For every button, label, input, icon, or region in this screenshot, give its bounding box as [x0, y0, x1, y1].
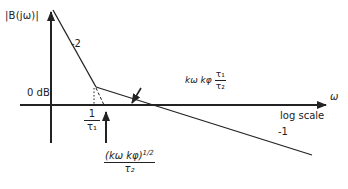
crossover-frequency-label: (kω kφ)1/2 τ₂ — [104, 150, 155, 174]
crossover-frequency-denominator: τ₂ — [104, 164, 155, 174]
crossing-label-numerator: τ₁ — [215, 70, 226, 79]
actual-response-curve — [96, 88, 104, 105]
break-frequency-label: 1 τ₁ — [84, 109, 100, 132]
slope-label-steep: -2 — [71, 39, 81, 49]
crossing-label-prefix: kω kφ — [185, 76, 212, 85]
asymptote-slope-minus-1 — [96, 87, 312, 155]
crossing-point-label: kω kφ τ₁ τ₂ — [185, 70, 226, 91]
x-axis-symbol: ω — [330, 92, 338, 102]
y-axis-label: |B(jω)| — [5, 11, 39, 21]
bode-diagram: |B(jω)| -2 -1 0 dB ω log scale 1 τ₁ (kω … — [0, 0, 348, 189]
crossover-numerator-base: (kω kφ) — [105, 150, 143, 161]
crossover-frequency-numerator: (kω kφ)1/2 — [104, 150, 155, 161]
slope-label-shallow: -1 — [278, 127, 288, 137]
x-axis-scale-label: log scale — [280, 111, 324, 121]
break-frequency-denominator: τ₁ — [84, 122, 100, 132]
crossing-label-fraction: τ₁ τ₂ — [215, 70, 226, 91]
zero-db-label: 0 dB — [27, 88, 50, 98]
break-frequency-numerator: 1 — [84, 109, 100, 119]
crossover-numerator-exponent: 1/2 — [143, 149, 154, 157]
crossing-label-denominator: τ₂ — [215, 82, 226, 91]
bode-plot-canvas — [0, 0, 348, 189]
